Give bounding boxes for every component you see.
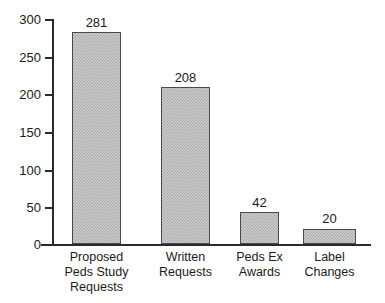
x-category-label-1-line-1: Proposed xyxy=(52,250,141,265)
y-tick-label-300: 300 xyxy=(19,13,41,26)
x-category-label-2-line-1: Written xyxy=(142,250,229,265)
bar-label-changes xyxy=(303,229,356,244)
x-category-label-2-line-2: Requests xyxy=(142,265,229,280)
x-category-label-4-line-1: Label xyxy=(292,250,367,265)
bar-value-label-4: 20 xyxy=(303,212,356,225)
bar-chart: 300 250 200 150 100 50 0 281 208 42 20 P… xyxy=(0,0,385,303)
bar-value-label-2: 208 xyxy=(161,71,210,84)
x-category-label-4: Label Changes xyxy=(292,250,367,280)
x-category-label-3-line-2: Awards xyxy=(220,265,299,280)
y-tick-mark-250 xyxy=(45,57,53,59)
y-tick-mark-200 xyxy=(45,94,53,96)
y-tick-label-100: 100 xyxy=(19,164,41,177)
bar-peds-ex-awards xyxy=(240,212,279,244)
y-tick-label-200: 200 xyxy=(19,88,41,101)
y-tick-label-0: 0 xyxy=(34,238,41,251)
y-tick-mark-300 xyxy=(45,19,53,21)
x-category-label-1-line-3: Requests xyxy=(52,280,141,295)
x-category-label-1-line-2: Peds Study xyxy=(52,265,141,280)
x-category-label-3-line-1: Peds Ex xyxy=(220,250,299,265)
y-tick-label-250: 250 xyxy=(19,51,41,64)
bar-written-requests xyxy=(161,87,210,244)
y-tick-mark-0 xyxy=(45,244,53,246)
y-tick-mark-150 xyxy=(45,132,53,134)
bar-value-label-3: 42 xyxy=(240,196,279,209)
bar-proposed-peds-study-requests xyxy=(72,32,121,244)
x-category-label-3: Peds Ex Awards xyxy=(220,250,299,280)
y-tick-mark-100 xyxy=(45,170,53,172)
x-axis-line xyxy=(41,244,371,246)
x-category-label-1: Proposed Peds Study Requests xyxy=(52,250,141,295)
bar-value-label-1: 281 xyxy=(72,16,121,29)
y-tick-label-150: 150 xyxy=(19,126,41,139)
x-category-label-4-line-2: Changes xyxy=(292,265,367,280)
y-tick-mark-50 xyxy=(45,207,53,209)
x-category-label-2: Written Requests xyxy=(142,250,229,280)
y-tick-label-50: 50 xyxy=(27,201,41,214)
